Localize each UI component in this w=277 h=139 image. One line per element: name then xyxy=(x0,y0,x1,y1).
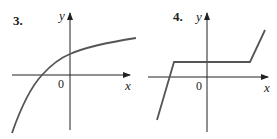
graph-3-y-label: y xyxy=(57,8,65,23)
graph-3-origin-label: 0 xyxy=(58,77,64,91)
graph-4-origin-label: 0 xyxy=(196,79,202,93)
graph-4-curve xyxy=(157,30,265,120)
graph-4: 4. y x 0 xyxy=(148,9,270,132)
graph-4-number: 4. xyxy=(173,9,183,24)
graph-3-x-label: x xyxy=(124,78,131,93)
graphs-figure: 3. y x 0 4. y x 0 xyxy=(0,0,277,139)
graph-3-curve xyxy=(12,38,136,133)
graph-3: 3. y x 0 xyxy=(12,8,136,133)
graph-4-y-label: y xyxy=(194,9,202,24)
graph-4-x-label: x xyxy=(263,80,270,95)
graph-3-number: 3. xyxy=(13,13,23,28)
